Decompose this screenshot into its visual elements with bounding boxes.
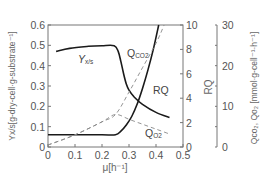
label-qco2: QCO2: [127, 47, 149, 59]
q-tick-label: 0: [222, 141, 228, 153]
x-tick-label: 0: [45, 149, 51, 161]
y-tick-label: 0.5: [30, 39, 45, 51]
q-axis-ticks: 0102030: [215, 19, 234, 153]
y-tick-label: 0.2: [30, 100, 45, 112]
y-tick-label: 0.6: [30, 19, 45, 31]
label-qo2: QO2: [145, 127, 162, 139]
rq-tick-label: 6: [186, 68, 192, 80]
x-tick-label: 0.2: [95, 149, 110, 161]
q-tick-label: 10: [222, 100, 234, 112]
rq-tick-label: 10: [186, 19, 198, 31]
x-axis-title: μ[h⁻¹]: [102, 162, 127, 173]
rq-tick-label: 8: [186, 43, 192, 55]
rq-tick-label: 0: [186, 141, 192, 153]
series-labels: Yx/sQCO2RQQO2: [78, 47, 169, 139]
rq-axis-title: RQ: [203, 79, 214, 94]
y-tick-label: 0.4: [30, 60, 45, 72]
y-tick-label: 0.3: [30, 80, 45, 92]
rq-tick-label: 2: [186, 117, 192, 129]
series-yx-s: [56, 45, 169, 117]
y-tick-label: 0: [39, 141, 45, 153]
y-axis-title: Yx/s[g-dry-cell·g-substrate⁻¹]: [7, 31, 17, 140]
x-tick-label: 0.1: [68, 149, 83, 161]
series-rq: [48, 25, 159, 135]
x-tick-label: 0.3: [122, 149, 137, 161]
q-tick-label: 30: [222, 19, 234, 31]
rq-tick-label: 4: [186, 92, 192, 104]
q-axis-title: Qco₂, Qo₂ [mmol·g-cell⁻¹·h⁻¹]: [249, 32, 259, 144]
chart: 00.10.20.30.40.5 00.10.20.30.40.50.6 024…: [0, 0, 266, 187]
y-tick-label: 0.1: [30, 121, 45, 133]
label-yx-s: Yx/s: [78, 53, 94, 65]
label-rq: RQ: [153, 84, 169, 96]
q-tick-label: 20: [222, 60, 234, 72]
x-tick-label: 0.4: [149, 149, 164, 161]
